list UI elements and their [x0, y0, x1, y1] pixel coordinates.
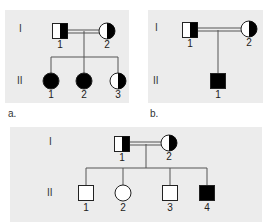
panel-caption-a: a. [8, 108, 16, 119]
father-carrier-symbol [183, 23, 198, 38]
child-1-unaffected-male [79, 186, 94, 201]
mother-carrier-symbol [161, 135, 177, 151]
father-label: 1 [52, 39, 68, 50]
pedigree-panel-a: I II 1 2 1 2 3 [5, 10, 129, 103]
pedigree-lines-c [10, 127, 262, 222]
father-label: 1 [114, 152, 130, 163]
father-carrier-symbol [53, 24, 68, 39]
child-label: 1 [210, 89, 226, 100]
pedigree-panel-b: I II 1 2 1 [148, 10, 263, 103]
child-1-affected-male [211, 74, 226, 89]
child-1-affected-female [43, 73, 59, 89]
child-3-unaffected-male [163, 186, 178, 201]
mother-label: 2 [241, 37, 257, 48]
child-4-affected-male [200, 186, 215, 201]
child-label: 1 [78, 202, 94, 213]
child-label: 2 [115, 202, 131, 213]
pedigree-lines-b [148, 10, 263, 103]
father-carrier-symbol [115, 137, 130, 152]
child-2-unaffected-female [115, 185, 131, 201]
mother-label: 2 [99, 39, 115, 50]
mother-label: 2 [161, 151, 177, 162]
child-label: 4 [199, 202, 215, 213]
panel-caption-b: b. [150, 108, 158, 119]
child-2-affected-female [76, 73, 92, 89]
child-3-carrier-female [110, 73, 126, 89]
mother-carrier-symbol [99, 23, 115, 39]
pedigree-panel-c: I II 1 2 1 2 3 4 [10, 127, 262, 222]
father-label: 1 [182, 38, 198, 49]
child-label: 2 [76, 89, 92, 100]
mother-carrier-symbol [241, 21, 257, 37]
child-label: 3 [110, 89, 126, 100]
child-label: 3 [162, 202, 178, 213]
child-label: 1 [43, 89, 59, 100]
